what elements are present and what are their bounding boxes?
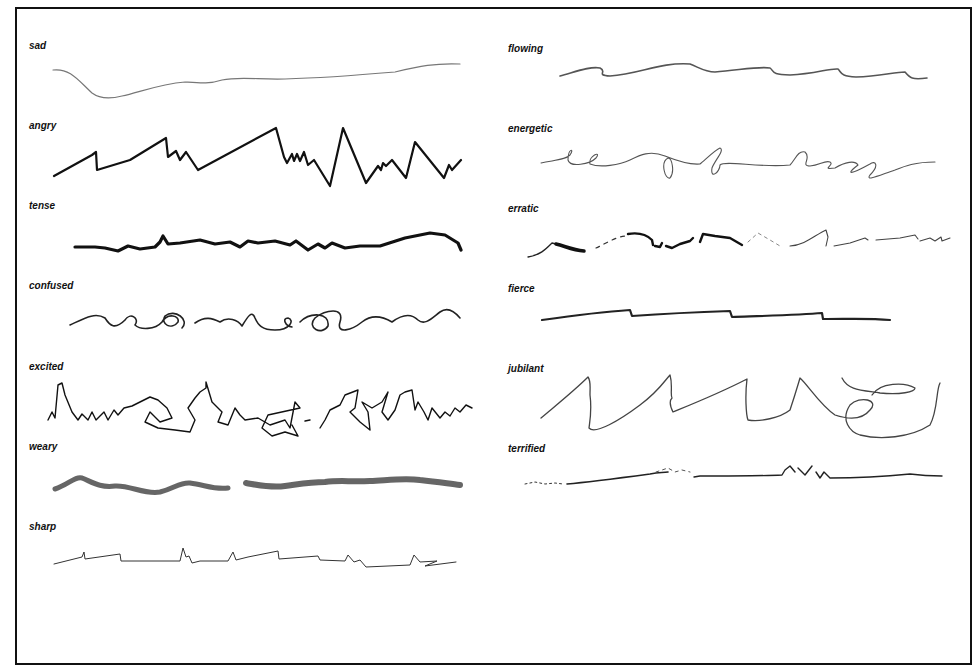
stroke-jubilant	[541, 375, 940, 438]
stroke-terrified	[525, 482, 563, 484]
stroke-weary	[55, 478, 228, 493]
stroke-excited	[48, 382, 472, 436]
stroke-terrified-4	[694, 466, 942, 478]
stroke-confused	[70, 310, 460, 331]
stroke-tense	[75, 233, 461, 251]
stroke-erratic-4	[748, 233, 780, 246]
stroke-erratic-blob-1	[556, 244, 584, 251]
stroke-terrified-2	[567, 472, 668, 484]
stroke-erratic-3	[628, 233, 742, 248]
stroke-sharp	[54, 548, 456, 567]
stroke-fierce	[542, 310, 890, 320]
stroke-weary-2	[246, 479, 460, 487]
stroke-flowing	[560, 64, 927, 79]
stroke-angry	[54, 128, 461, 186]
expressive-strokes	[0, 0, 978, 669]
stroke-erratic-5	[790, 230, 950, 246]
stroke-erratic-2	[596, 236, 625, 248]
stroke-terrified-3	[656, 468, 690, 472]
stroke-sad	[53, 64, 460, 98]
stroke-energetic	[541, 148, 935, 178]
